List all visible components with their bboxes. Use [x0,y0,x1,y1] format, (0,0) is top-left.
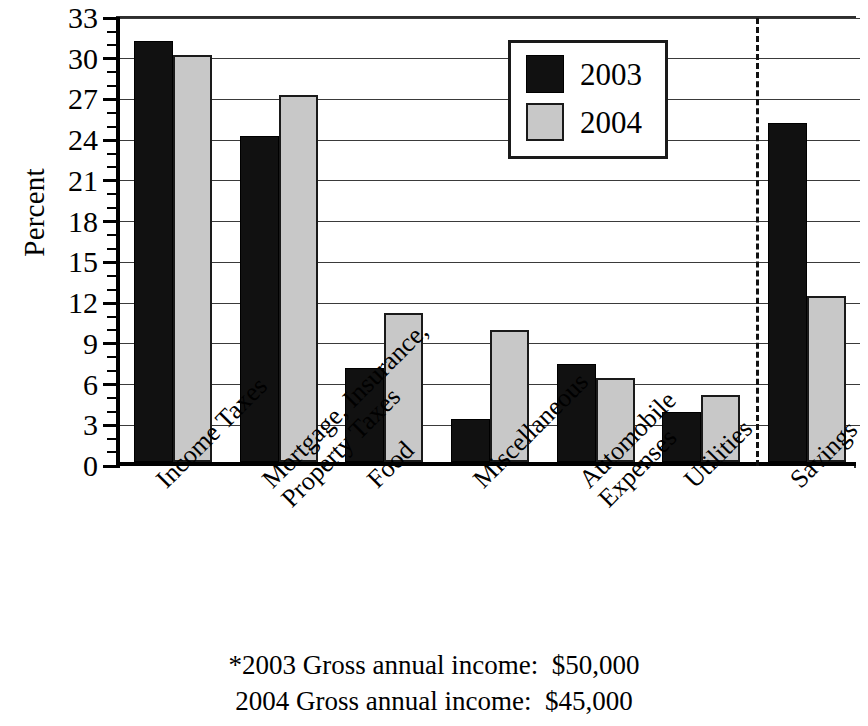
y-axis-label-15: 15 [34,247,98,277]
tick-minor-10 [107,329,120,331]
chart-legend[interactable]: 2003 2004 [508,40,668,159]
legend-label-2003: 2003 [580,59,642,90]
y-axis-label-0: 0 [34,451,98,481]
y-axis-label-6: 6 [34,370,98,400]
y-axis-label-27: 27 [34,84,98,114]
gridline-15 [120,262,860,263]
y-axis-label-21: 21 [34,166,98,196]
tick-minor-1 [107,451,120,453]
bar-2004-cat-0[interactable] [173,55,212,462]
tick-minor-2 [107,438,120,440]
y-axis-label-33: 33 [34,3,98,33]
chart-figure: Percent 03691215182124273033 Income Taxe… [0,0,868,726]
bar-2003-cat-0[interactable] [134,41,173,462]
tick-major-12 [103,302,120,305]
y-axis-label-30: 30 [34,44,98,74]
gridline-33 [120,18,860,19]
bar-2003-cat-6[interactable] [768,123,807,462]
tick-minor-32 [107,31,120,33]
tick-minor-19 [107,207,120,209]
tick-minor-31 [107,44,120,46]
y-axis-label-12: 12 [34,288,98,318]
tick-minor-26 [107,112,120,114]
tick-minor-13 [107,289,120,291]
tick-minor-20 [107,193,120,195]
tick-minor-29 [107,71,120,73]
tick-minor-7 [107,370,120,372]
footnote-line-1: *2003 Gross annual income: $50,000 [0,648,868,684]
bar-2004-cat-1[interactable] [279,95,318,462]
tick-major-15 [103,261,120,264]
tick-minor-23 [107,153,120,155]
tick-minor-11 [107,316,120,318]
tick-major-9 [103,342,120,345]
savings-separator-line [756,18,759,466]
tick-minor-16 [107,248,120,250]
legend-label-2004: 2004 [580,107,642,138]
tick-minor-22 [107,166,120,168]
tick-minor-17 [107,234,120,236]
legend-item-2003[interactable]: 2003 [526,53,642,95]
gridline-12 [120,303,860,304]
legend-swatch-2004 [526,103,564,141]
tick-minor-5 [107,397,120,399]
tick-minor-14 [107,275,120,277]
gridline-18 [120,221,860,222]
gridline-30 [120,58,860,59]
tick-major-0 [103,465,120,468]
y-axis-label-24: 24 [34,125,98,155]
gridline-24 [120,140,860,141]
tick-major-18 [103,220,120,223]
tick-minor-4 [107,411,120,413]
tick-major-24 [103,139,120,142]
gridline-27 [120,99,860,100]
chart-footnotes: *2003 Gross annual income: $50,000 2004 … [0,648,868,719]
tick-minor-25 [107,126,120,128]
tick-major-33 [103,17,120,20]
y-axis-label-18: 18 [34,207,98,237]
tick-major-27 [103,98,120,101]
footnote-line-2: 2004 Gross annual income: $45,000 [0,684,868,720]
legend-swatch-2003 [526,55,564,93]
tick-minor-8 [107,356,120,358]
tick-major-21 [103,179,120,182]
tick-minor-28 [107,85,120,87]
tick-major-6 [103,383,120,386]
y-axis-label-3: 3 [34,410,98,440]
legend-item-2004[interactable]: 2004 [526,101,642,143]
gridline-21 [120,180,860,181]
tick-major-3 [103,424,120,427]
y-axis-label-9: 9 [34,329,98,359]
tick-major-30 [103,57,120,60]
